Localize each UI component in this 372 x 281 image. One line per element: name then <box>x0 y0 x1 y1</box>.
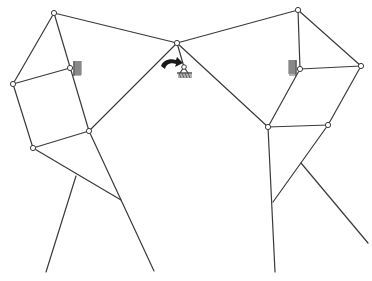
link-bar <box>13 13 54 84</box>
joint-h-icon <box>297 66 302 71</box>
joint-j-icon <box>265 124 270 129</box>
link-bar <box>54 13 177 43</box>
link-bar <box>33 148 121 200</box>
linkage-diagram <box>0 0 372 281</box>
ground-left-icon <box>74 61 82 76</box>
link-bar <box>46 176 76 272</box>
joint-b-icon <box>10 81 15 86</box>
link-bar <box>300 66 361 69</box>
link-bar <box>268 127 275 272</box>
ground-right-icon <box>288 60 296 76</box>
mechanism-canvas <box>0 0 372 281</box>
link-bar <box>268 69 300 127</box>
link-bar <box>33 131 89 148</box>
link-bar <box>328 66 361 125</box>
link-bar <box>273 125 328 202</box>
link-bar <box>298 10 361 66</box>
link-bar <box>177 10 298 43</box>
rotation-arrow-icon <box>161 57 183 69</box>
joint-p-icon <box>182 65 187 70</box>
joint-c-icon <box>67 65 72 70</box>
joint-e-icon <box>30 145 35 150</box>
link-bar <box>89 43 177 131</box>
joint-d-icon <box>86 128 91 133</box>
link-bar <box>13 68 70 84</box>
joint-f-icon <box>174 40 179 45</box>
link-bar <box>268 125 328 127</box>
joint-k-icon <box>325 122 330 127</box>
link-bar <box>177 43 268 127</box>
joint-a-icon <box>51 10 56 15</box>
joint-i-icon <box>358 63 363 68</box>
link-bar <box>298 10 300 69</box>
links-layer <box>13 10 368 272</box>
link-bar <box>54 13 89 131</box>
link-bar <box>301 163 368 243</box>
link-bar <box>89 131 154 271</box>
joints-layer <box>10 7 363 150</box>
link-bar <box>13 84 33 148</box>
joint-g-icon <box>295 7 300 12</box>
